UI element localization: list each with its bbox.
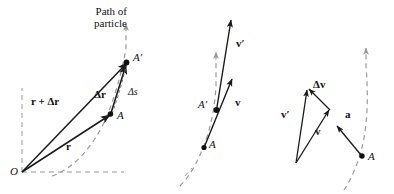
path-label-line-2: particle bbox=[94, 17, 127, 29]
label-a-prime-velocity: A′ bbox=[198, 99, 207, 111]
path-of-particle-label: Path of particle bbox=[63, 6, 127, 30]
point-a-prime-marker bbox=[124, 60, 130, 66]
vector-a-arrow bbox=[337, 126, 361, 155]
vector-v-prime-arrow-accel bbox=[296, 90, 307, 163]
point-a-prime-marker-velocity bbox=[214, 107, 220, 113]
label-vector-delta-r: Δr bbox=[94, 89, 106, 101]
label-vector-r-plus-delta-r: r + Δr bbox=[31, 96, 59, 108]
label-arc-delta-s: Δs bbox=[128, 87, 138, 98]
label-vector-r: r bbox=[66, 141, 71, 153]
vector-v-arrow bbox=[205, 79, 233, 147]
panel-3-graphics bbox=[296, 48, 367, 190]
vector-delta-v-arrow bbox=[309, 89, 330, 110]
figure-canvas: Path of particle A′ A r r + Δr Δr Δs O v… bbox=[0, 0, 394, 194]
path-label-line-1: Path of bbox=[96, 5, 127, 17]
point-a-marker bbox=[108, 111, 113, 116]
vector-v-prime-arrow bbox=[217, 20, 232, 110]
vector-v-arrow-accel bbox=[296, 110, 329, 163]
label-a-velocity: A bbox=[209, 139, 216, 151]
vector-r-plus-delta-r-arrow bbox=[22, 63, 127, 172]
trajectory-curve bbox=[180, 52, 216, 186]
label-a-prime: A′ bbox=[133, 52, 142, 64]
label-vector-v-accel: v bbox=[315, 126, 321, 138]
label-vector-v-prime-accel: v′ bbox=[281, 109, 290, 121]
point-a-marker-accel bbox=[359, 153, 364, 158]
label-vector-v: v bbox=[235, 97, 241, 109]
label-vector-a: a bbox=[345, 109, 351, 121]
point-a-marker-velocity bbox=[201, 145, 206, 150]
axis-tick-dashed bbox=[185, 168, 192, 176]
label-a: A bbox=[117, 110, 124, 122]
label-vector-delta-v: Δv bbox=[313, 79, 325, 91]
label-a-accel: A bbox=[368, 151, 375, 163]
label-vector-v-prime: v′ bbox=[236, 38, 245, 50]
label-origin-o: O bbox=[10, 166, 18, 178]
